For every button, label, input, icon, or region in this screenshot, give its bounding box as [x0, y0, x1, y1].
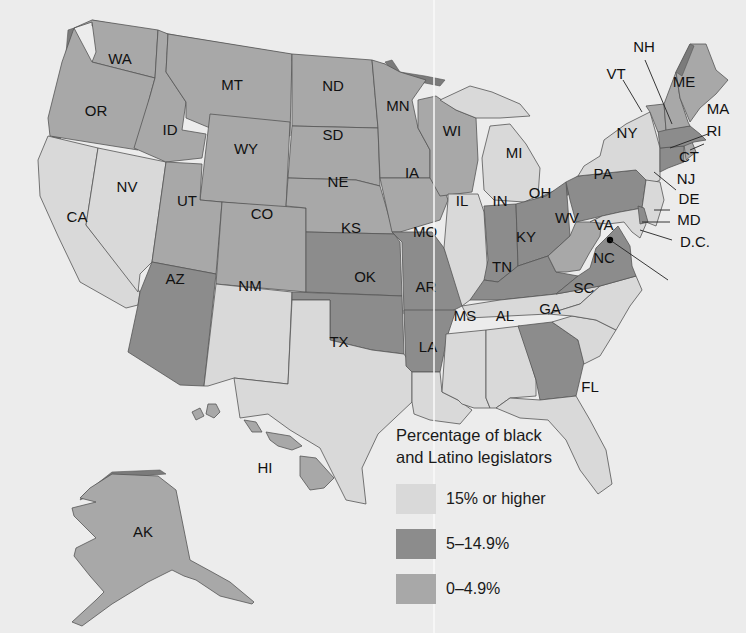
label-IA: IA	[405, 164, 419, 181]
label-WA: WA	[108, 50, 132, 67]
label-MD: MD	[677, 211, 700, 228]
label-WY: WY	[234, 140, 258, 157]
label-NV: NV	[117, 178, 138, 195]
label-OK: OK	[354, 268, 376, 285]
state-HI-molokai[interactable]	[244, 420, 262, 432]
label-NM: NM	[238, 277, 261, 294]
legend-title-line1: Percentage of black	[396, 424, 636, 446]
label-NJ: NJ	[677, 170, 695, 187]
label-GA: GA	[539, 300, 561, 317]
label-TN: TN	[492, 258, 512, 275]
legend-title-line2: and Latino legislators	[396, 446, 636, 468]
label-CA: CA	[67, 208, 88, 225]
label-CO: CO	[251, 205, 274, 222]
state-HI-kauai[interactable]	[192, 408, 204, 420]
state-HI-oahu[interactable]	[206, 404, 220, 418]
state-HI-maui[interactable]	[266, 432, 302, 450]
label-UT: UT	[177, 192, 197, 209]
label-DE: DE	[679, 190, 700, 207]
label-PA: PA	[594, 165, 613, 182]
legend-item-low: 0–4.9%	[396, 574, 636, 604]
label-NH: NH	[633, 38, 655, 55]
legend-swatch-high	[396, 484, 436, 514]
legend-label-high: 15% or higher	[446, 490, 546, 508]
label-NE: NE	[328, 173, 349, 190]
label-WV: WV	[555, 209, 579, 226]
label-MI: MI	[506, 144, 523, 161]
label-HI: HI	[258, 459, 273, 476]
label-SC: SC	[574, 279, 595, 296]
label-ID: ID	[163, 121, 178, 138]
label-TX: TX	[329, 333, 348, 350]
state-WY[interactable]	[200, 114, 290, 208]
label-NC: NC	[593, 249, 615, 266]
legend-item-mid: 5–14.9%	[396, 529, 636, 559]
state-KS[interactable]	[306, 232, 402, 296]
label-KS: KS	[341, 219, 361, 236]
label-RI: RI	[707, 122, 722, 139]
state-NM[interactable]	[204, 284, 292, 386]
label-AL: AL	[496, 307, 514, 324]
label-MN: MN	[386, 97, 409, 114]
label-ND: ND	[322, 77, 344, 94]
leader-VT	[623, 80, 642, 112]
label-IL: IL	[456, 192, 469, 209]
label-IN: IN	[493, 192, 508, 209]
label-MA: MA	[707, 100, 730, 117]
label-WI: WI	[443, 122, 461, 139]
label-KY: KY	[516, 228, 536, 245]
label-ME: ME	[673, 73, 696, 90]
label-MS: MS	[454, 307, 477, 324]
legend-label-low: 0–4.9%	[446, 580, 500, 598]
label-MT: MT	[221, 76, 243, 93]
legend-item-high: 15% or higher	[396, 484, 636, 514]
label-OR: OR	[85, 102, 108, 119]
legend-title: Percentage of black and Latino legislato…	[396, 424, 636, 468]
state-AK[interactable]	[72, 474, 254, 626]
legend: Percentage of black and Latino legislato…	[396, 424, 636, 619]
label-NY: NY	[617, 124, 638, 141]
legend-swatch-low	[396, 574, 436, 604]
label-FL: FL	[581, 378, 599, 395]
leader-MD	[640, 230, 672, 240]
label-SD: SD	[323, 126, 344, 143]
legend-label-mid: 5–14.9%	[446, 535, 509, 553]
label-OH: OH	[529, 184, 552, 201]
label-AK: AK	[133, 523, 153, 540]
label-VT: VT	[606, 65, 625, 82]
label-AZ: AZ	[165, 270, 184, 287]
label-VA: VA	[595, 216, 614, 233]
label-DC: D.C.	[680, 233, 710, 250]
legend-swatch-mid	[396, 529, 436, 559]
label-CT: CT	[679, 148, 699, 165]
